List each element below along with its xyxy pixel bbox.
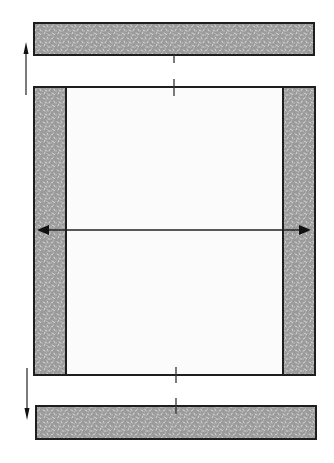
arrowhead-down-icon: [25, 408, 30, 420]
center-panel: [34, 87, 315, 375]
left-border-strip: [34, 87, 66, 375]
top-border-strip: [34, 23, 314, 55]
quilt-border-diagram: [0, 0, 334, 463]
arrowhead-up-icon: [24, 42, 29, 54]
